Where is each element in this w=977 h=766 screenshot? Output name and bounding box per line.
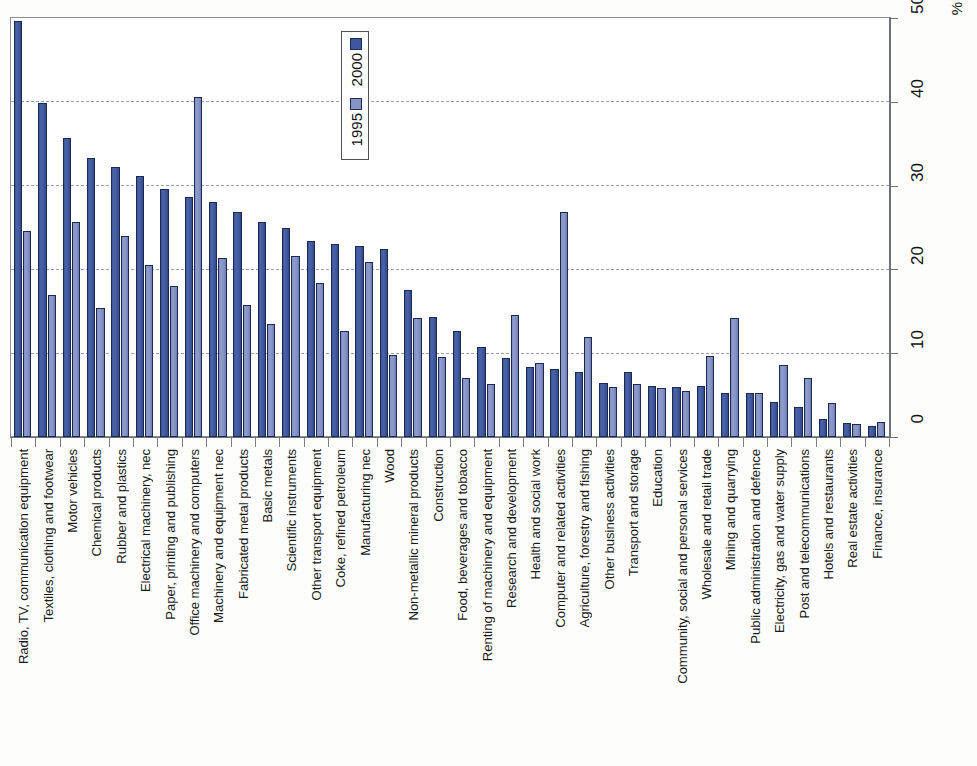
category-label: Computer and related activities: [553, 449, 568, 628]
bar-group: [404, 18, 423, 437]
bar-2000: [136, 176, 144, 437]
y-tick-label: 20: [895, 246, 941, 265]
x-tick: [865, 438, 866, 447]
x-tick: [206, 438, 207, 447]
category-label: Rubber and plastics: [114, 449, 129, 564]
category-label: Mining and quarrying: [723, 449, 738, 570]
bar-group: [87, 18, 106, 437]
bar-2000: [746, 393, 754, 437]
x-tick: [35, 438, 36, 447]
bar-2000: [526, 367, 534, 437]
bar-2000: [477, 347, 485, 437]
category-label: Textiles, clothing and footwear: [41, 449, 56, 623]
bar-2000: [355, 246, 363, 437]
category-label: Basic metals: [260, 449, 275, 523]
y-tick: [890, 186, 898, 187]
category-label: Non-metallic mineral products: [406, 449, 421, 621]
x-tick: [645, 438, 646, 447]
x-tick: [401, 438, 402, 447]
bar-2000: [185, 197, 193, 437]
bar-group: [843, 18, 862, 437]
bar-1995: [365, 262, 373, 437]
legend-label-2000: 2000: [348, 53, 365, 86]
x-tick: [791, 438, 792, 447]
bar-1995: [96, 308, 104, 437]
bar-1995: [779, 365, 787, 437]
bar-2000: [770, 402, 778, 437]
category-labels: Radio, TV, communication equipmentTextil…: [0, 449, 977, 766]
category-label: Community, social and personal services: [675, 449, 690, 684]
category-label: Electricity, gas and water supply: [772, 449, 787, 633]
bar-1995: [487, 384, 495, 437]
x-tick: [279, 438, 280, 447]
bar-2000: [648, 386, 656, 437]
bar-group: [794, 18, 813, 437]
bar-2000: [209, 202, 217, 437]
x-tick: [499, 438, 500, 447]
bar-2000: [14, 21, 22, 437]
category-label: Radio, TV, communication equipment: [16, 449, 31, 664]
bar-2000: [63, 138, 71, 437]
y-tick: [890, 269, 898, 270]
y-tick-label: 30: [895, 163, 941, 182]
bar-1995: [340, 331, 348, 437]
y-axis-unit-label: %: [948, 2, 965, 15]
category-label: Construction: [431, 449, 446, 522]
x-tick: [572, 438, 573, 447]
y-tick-label: 0: [895, 414, 941, 423]
category-label: Research and development: [504, 449, 519, 608]
x-tick: [621, 438, 622, 447]
x-tick: [694, 438, 695, 447]
bar-2000: [697, 386, 705, 437]
legend-swatch-2000: [350, 38, 362, 50]
bar-1995: [877, 422, 885, 437]
bar-group: [770, 18, 789, 437]
x-tick: [816, 438, 817, 447]
y-tick-label: 50: [895, 0, 941, 14]
bar-2000: [331, 244, 339, 437]
bar-2000: [624, 372, 632, 437]
bar-group: [575, 18, 594, 437]
bar-2000: [453, 331, 461, 437]
bar-1995: [291, 256, 299, 437]
bar-group: [599, 18, 618, 437]
category-label: Other business activities: [602, 449, 617, 589]
chart-legend: 2000 1995: [341, 31, 369, 160]
bar-group: [550, 18, 569, 437]
category-label: Fabricated metal products: [236, 449, 251, 599]
bar-group: [672, 18, 691, 437]
x-tick: [889, 438, 890, 447]
x-tick: [304, 438, 305, 447]
bar-group: [14, 18, 33, 437]
category-label: Agriculture, forestry and fishing: [577, 449, 592, 627]
bar-1995: [72, 222, 80, 437]
legend-entry-2000: 2000: [342, 38, 370, 86]
x-tick: [109, 438, 110, 447]
bar-chart: 2000 1995 01020304050 % Radio, TV, commu…: [0, 0, 977, 766]
bar-1995: [682, 391, 690, 437]
category-label: Electrical machinery, nec: [138, 449, 153, 592]
bar-2000: [672, 387, 680, 437]
y-tick: [890, 353, 898, 354]
bar-2000: [160, 189, 168, 437]
legend-entry-1995: 1995: [342, 98, 370, 146]
bar-1995: [511, 315, 519, 437]
bar-2000: [111, 167, 119, 437]
bar-2000: [599, 383, 607, 437]
category-label: Manufacturing nec: [358, 449, 373, 556]
x-tick: [352, 438, 353, 447]
bar-1995: [560, 212, 568, 437]
category-label: Other transport equipment: [309, 449, 324, 600]
bar-group: [429, 18, 448, 437]
category-label: Paper, printing and publishing: [163, 449, 178, 620]
category-label: Finance, insurance: [870, 449, 885, 559]
bar-1995: [413, 318, 421, 437]
bar-1995: [23, 231, 31, 437]
x-tick: [182, 438, 183, 447]
category-label: Wood: [382, 449, 397, 483]
bar-1995: [804, 378, 812, 437]
bar-group: [453, 18, 472, 437]
x-tick: [450, 438, 451, 447]
bars-container: [11, 18, 889, 437]
bar-1995: [462, 378, 470, 437]
